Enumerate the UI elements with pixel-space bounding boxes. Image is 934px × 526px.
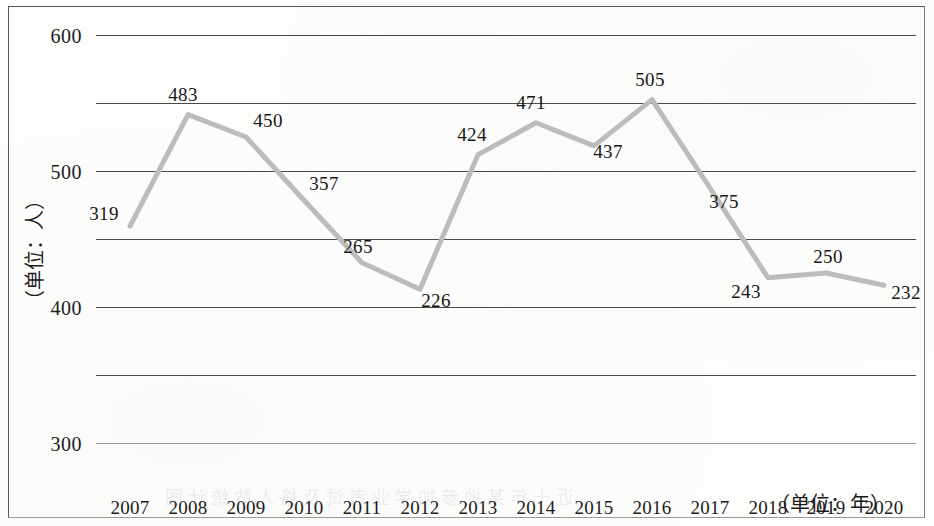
- series-line: [130, 100, 884, 290]
- data-label-2020: 232: [891, 282, 920, 304]
- data-label-2009: 450: [253, 110, 282, 132]
- x-tick-label-2014: 2014: [516, 497, 555, 519]
- data-label-2011: 265: [343, 236, 372, 258]
- y-tick-label-400: 400: [51, 297, 83, 320]
- x-tick-label-2016: 2016: [632, 497, 671, 519]
- x-tick-label-2018: 2018: [748, 497, 787, 519]
- gridline-0: 0: [96, 443, 916, 444]
- x-tick-label-2010: 2010: [284, 497, 323, 519]
- plot-area: 0100200300400500600 20072008200920102011…: [96, 35, 916, 443]
- y-axis-title: （单位：人）: [19, 190, 48, 310]
- chart-page: 近十年某地参加学业考试及格人数统计图 （单位：人） （单位：年） 0100200…: [0, 0, 934, 526]
- data-label-2014: 471: [516, 92, 545, 114]
- data-label-2012: 226: [421, 290, 450, 312]
- y-tick-label-600: 600: [51, 25, 83, 48]
- data-label-2017: 375: [709, 191, 738, 213]
- x-tick-label-2008: 2008: [168, 497, 207, 519]
- x-tick-label-2007: 2007: [110, 497, 149, 519]
- data-label-2016: 505: [635, 69, 664, 91]
- x-tick-label-2011: 2011: [343, 497, 382, 519]
- x-tick-label-2015: 2015: [574, 497, 613, 519]
- data-label-2010: 357: [309, 173, 338, 195]
- line-series: [96, 35, 916, 443]
- x-tick-label-2017: 2017: [690, 497, 729, 519]
- x-tick-label-2019: 2019: [806, 497, 845, 519]
- y-tick-label-500: 500: [51, 161, 83, 184]
- data-label-2013: 424: [457, 124, 486, 146]
- data-label-2019: 250: [813, 246, 842, 268]
- x-tick-label-2020: 2020: [864, 497, 903, 519]
- data-label-2015: 437: [593, 141, 622, 163]
- data-label-2008: 483: [168, 84, 197, 106]
- x-tick-label-2013: 2013: [458, 497, 497, 519]
- data-label-2018: 243: [731, 281, 760, 303]
- x-tick-label-2012: 2012: [400, 497, 439, 519]
- y-tick-label-300: 300: [51, 433, 83, 456]
- x-tick-label-2009: 2009: [226, 497, 265, 519]
- data-label-2007: 319: [89, 203, 118, 225]
